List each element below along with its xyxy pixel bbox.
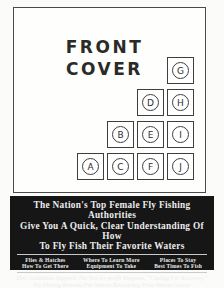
cover-banner: The Nation's Top Female Fly Fishing Auth…	[10, 196, 214, 270]
banner-column-3: Places To Stay Best Times To Fish	[154, 257, 202, 270]
banner-column-2-line2: Equipment To Take	[83, 263, 140, 270]
banner-divider-top	[17, 254, 207, 255]
callout-box-c: C	[107, 153, 134, 180]
callout-letter-c: C	[112, 158, 129, 175]
callout-letter-i: I	[172, 126, 189, 143]
callout-box-i: I	[167, 121, 194, 148]
callout-box-f: F	[137, 153, 164, 180]
callout-grid: G D H B E I A C F	[77, 57, 194, 180]
banner-divider-bottom	[17, 272, 207, 273]
callout-box-h: H	[167, 89, 194, 116]
callout-letter-e: E	[142, 126, 159, 143]
callout-box-d: D	[137, 89, 164, 116]
callout-letter-j: J	[172, 158, 189, 175]
callout-box-e: E	[137, 121, 164, 148]
callout-letter-f: F	[142, 158, 159, 175]
callout-letter-g: G	[172, 62, 189, 79]
front-cover-title-line1: FRONT	[14, 36, 195, 58]
callout-box-j: J	[167, 153, 194, 180]
banner-footnote-line2: Fly Fishing Retreats For Women Recoverin…	[10, 282, 214, 288]
banner-footnote: This Guidebook Supports The Not-for-prof…	[10, 275, 214, 288]
banner-columns: Flies & Hatches How To Get There Where T…	[10, 257, 214, 270]
banner-headline-line3: To Fly Fish Their Favorite Waters	[10, 241, 214, 251]
banner-column-1: Flies & Hatches How To Get There	[22, 257, 69, 270]
front-cover-outline: FRONT COVER G D H B E I A	[13, 7, 206, 193]
callout-letter-b: B	[112, 126, 129, 143]
callout-letter-h: H	[172, 94, 189, 111]
callout-box-a: A	[77, 153, 104, 180]
callout-box-g: G	[167, 57, 194, 84]
banner-headline-line2: Give You A Quick, Clear Understanding Of…	[10, 221, 214, 242]
banner-headline-line1: The Nation's Top Female Fly Fishing Auth…	[10, 200, 214, 221]
banner-column-1-line2: How To Get There	[22, 263, 69, 270]
banner-column-3-line2: Best Times To Fish	[154, 263, 202, 270]
callout-box-b: B	[107, 121, 134, 148]
banner-headline: The Nation's Top Female Fly Fishing Auth…	[10, 200, 214, 251]
banner-column-2: Where To Learn More Equipment To Take	[83, 257, 140, 270]
callout-letter-d: D	[142, 94, 159, 111]
callout-letter-a: A	[82, 158, 99, 175]
